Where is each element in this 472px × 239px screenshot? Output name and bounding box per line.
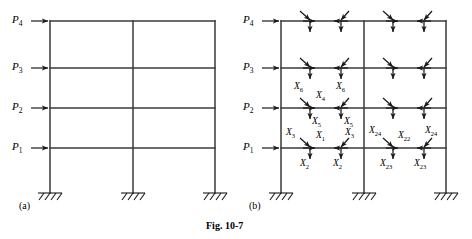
support-left-a	[38, 193, 62, 200]
redundant-label-X23b: X23	[414, 159, 426, 170]
figure-10-7: P4 P3 P2 P1 P4 P3 P2 P1 X6 X4 X6 X5 X5 X…	[0, 0, 472, 239]
load-label-P3-a: P3	[12, 61, 22, 75]
redundant-label-X2a: X2	[300, 159, 309, 170]
frame-diagrams	[0, 0, 472, 239]
support-middle-a	[121, 193, 145, 200]
load-label-P2-a: P2	[12, 101, 22, 115]
panel-a-frame	[50, 21, 215, 193]
panel-label-b: (b)	[249, 200, 261, 211]
panel-label-a: (a)	[19, 200, 30, 211]
supports-a	[38, 193, 227, 200]
load-arrows-b	[262, 21, 279, 148]
redundant-label-X1: X1	[316, 131, 325, 142]
redundant-label-X5a: X5	[312, 117, 321, 128]
figure-caption: Fig. 10-7	[206, 220, 243, 231]
force-cluster-L3-bay1-right	[334, 58, 349, 79]
load-label-P4-a: P4	[12, 14, 22, 28]
redundant-label-X22: X22	[398, 131, 410, 142]
load-label-P1-a: P1	[12, 141, 22, 155]
force-cluster-L3-bay2-right	[417, 58, 432, 79]
load-label-P2-b: P2	[243, 101, 253, 115]
load-label-P4-b: P4	[243, 14, 253, 28]
redundant-label-X6a: X6	[294, 82, 303, 93]
force-cluster-L2-bay2-right	[417, 98, 432, 119]
support-right-b	[434, 193, 458, 200]
load-label-P1-b: P1	[243, 141, 253, 155]
load-label-P3-b: P3	[243, 61, 253, 75]
supports-b	[269, 193, 458, 200]
redundant-label-X4: X4	[316, 91, 325, 102]
redundant-label-X23a: X23	[380, 159, 392, 170]
force-cluster-L4-bay2-right	[417, 11, 432, 32]
force-cluster-L4-bay1-right	[334, 11, 349, 32]
redundant-label-X3a: X3	[286, 128, 295, 139]
load-arrows-a	[31, 21, 48, 148]
support-middle-b	[352, 193, 376, 200]
redundant-label-X3b: X3	[345, 128, 354, 139]
redundant-label-X24b: X24	[425, 126, 437, 137]
redundant-label-X6b: X6	[336, 82, 345, 93]
support-left-b	[269, 193, 293, 200]
force-cluster-L1-bay1-right	[334, 138, 349, 159]
redundant-label-X24a: X24	[369, 126, 381, 137]
force-cluster-L1-bay2-right	[417, 138, 432, 159]
redundant-label-X2b: X2	[333, 159, 342, 170]
support-right-a	[203, 193, 227, 200]
